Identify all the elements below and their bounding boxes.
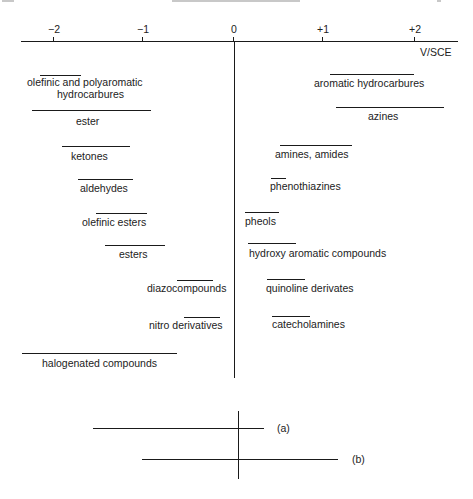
compound-label: quinoline derivates (266, 282, 354, 294)
compound-label: ester (76, 115, 99, 127)
axis-tick (142, 37, 143, 42)
inset-line-a (93, 428, 264, 429)
cropped-page-header (0, 0, 473, 5)
range-bar (336, 107, 444, 108)
compound-label: esters (119, 248, 148, 260)
axis-tick (53, 37, 54, 42)
range-bar (280, 145, 352, 146)
range-bar (105, 245, 165, 246)
compound-label: aromatic hydrocarbures (314, 77, 424, 89)
range-bar (78, 179, 133, 180)
range-bar (32, 110, 151, 111)
axis-tick-label: −2 (48, 23, 60, 35)
compound-label: pheols (245, 215, 276, 227)
compound-label: azines (368, 110, 398, 122)
axis-tick-label: +1 (317, 23, 329, 35)
compound-label: halogenated compounds (42, 357, 157, 369)
compound-label: diazocompounds (147, 282, 226, 294)
axis-tick-label: 0 (231, 23, 237, 35)
range-bar (62, 146, 130, 147)
inset-vertical-line (238, 411, 239, 479)
compound-label-line2: hydrocarbures (57, 88, 124, 100)
axis-tick-label: +2 (409, 23, 421, 35)
compound-label: amines, amides (275, 148, 349, 160)
compound-label: hydroxy aromatic compounds (249, 247, 386, 259)
compound-label: aldehydes (80, 182, 128, 194)
compound-label: olefinic esters (82, 216, 146, 228)
range-bar (22, 353, 177, 354)
axis-tick-label: −1 (137, 23, 149, 35)
range-bar (96, 213, 147, 214)
compound-label: catecholamines (272, 318, 345, 330)
inset-label-a: (a) (277, 422, 290, 434)
axis-tick (414, 37, 415, 42)
compound-label: phenothiazines (270, 180, 341, 192)
range-bar (267, 279, 305, 280)
axis-unit-label: V/SCE (420, 46, 452, 58)
inset-line-b (142, 459, 338, 460)
range-bar (245, 212, 279, 213)
zero-vertical-line (234, 41, 235, 378)
compound-label: ketones (71, 150, 108, 162)
inset-label-b: (b) (352, 453, 365, 465)
range-bar (248, 243, 296, 244)
compound-label: olefinic and polyaromatic (27, 76, 143, 88)
range-bar (330, 74, 414, 75)
axis-line (21, 41, 458, 42)
compound-label: nitro derivatives (149, 319, 223, 331)
axis-tick (322, 37, 323, 42)
